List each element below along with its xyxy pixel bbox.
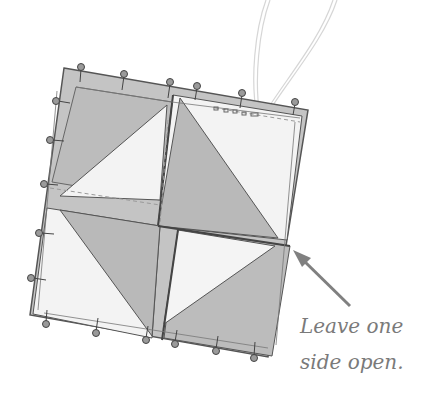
pin-head-icon: [292, 99, 299, 106]
caption-line-1: Leave one: [300, 308, 440, 344]
pin-head-icon: [93, 330, 100, 337]
pin-head-icon: [28, 275, 35, 282]
pin-head-icon: [41, 181, 48, 188]
pin-head-icon: [239, 90, 246, 97]
pin-head-icon: [194, 83, 201, 90]
pin-head-icon: [143, 337, 150, 344]
pin-head-icon: [167, 79, 174, 86]
block-top-right: [158, 95, 302, 240]
pin-head-icon: [47, 137, 54, 144]
pin-head-icon: [78, 64, 85, 71]
pin-head-icon: [36, 230, 43, 237]
pin-head-icon: [43, 321, 50, 328]
arrow-icon: [293, 250, 350, 306]
pin-head-icon: [121, 71, 128, 78]
pin-head-icon: [251, 355, 258, 362]
pin-head-icon: [213, 348, 220, 355]
caption-line-2: side open.: [300, 344, 440, 380]
pin-head-icon: [53, 98, 60, 105]
caption-text: Leave one side open.: [300, 308, 440, 380]
pin-head-icon: [172, 341, 179, 348]
block-bottom-right: [158, 226, 290, 356]
